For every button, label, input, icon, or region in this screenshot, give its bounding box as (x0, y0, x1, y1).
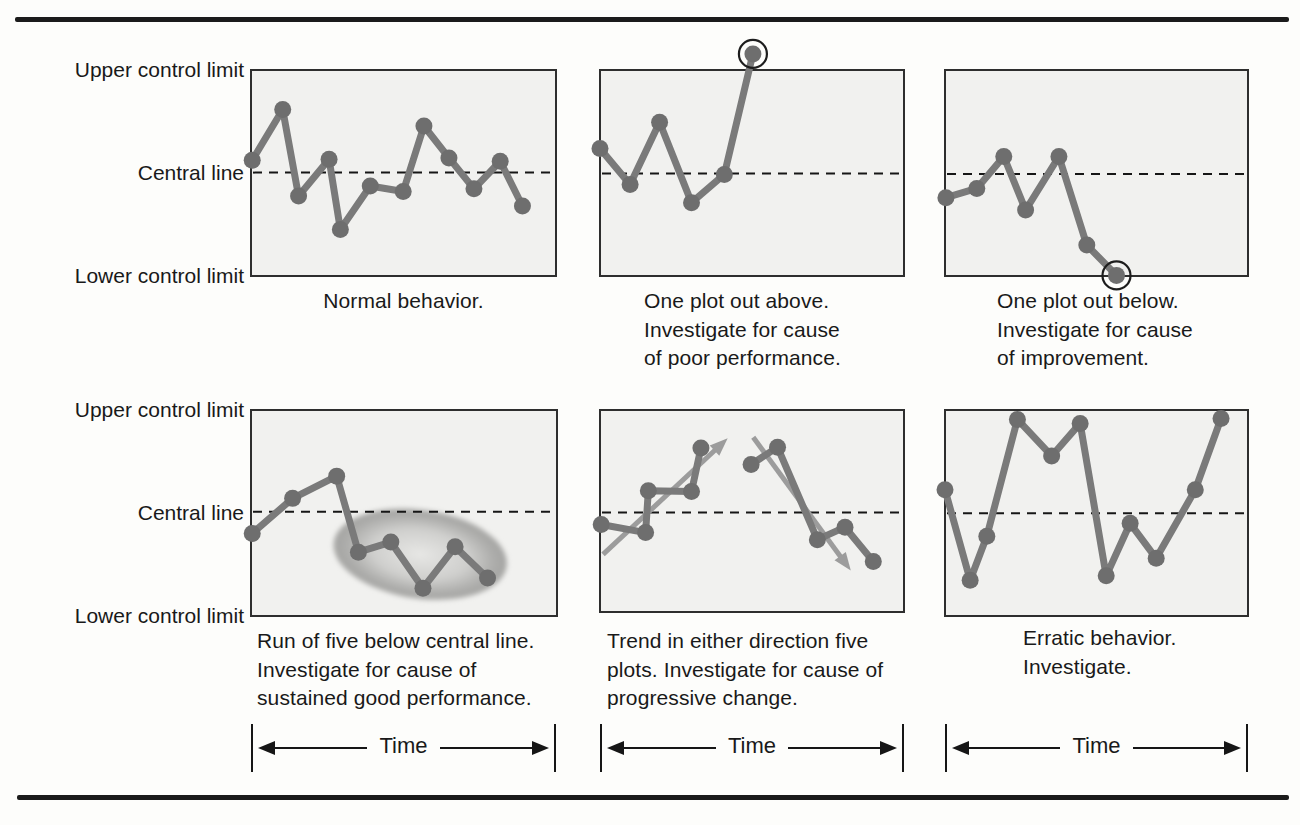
upper-control-limit-label-row1: Upper control limit (20, 57, 244, 83)
chart-panel-one-plot-out-above (568, 38, 936, 308)
arrowhead-left-icon (258, 741, 275, 755)
chart-panel-normal-behavior (219, 38, 588, 308)
time-axis-col1: Time (251, 724, 556, 772)
lower-control-limit-label-row2: Lower control limit (20, 603, 244, 629)
central-line-label-row1: Central line (20, 160, 244, 186)
caption-one-plot-out-below: One plot out below. Investigate for caus… (997, 287, 1193, 373)
time-axis-left-bar (600, 724, 602, 772)
caption-trend-five-plots: Trend in either direction five plots. In… (607, 627, 883, 713)
time-axis-right-bar (554, 724, 556, 772)
chart-panel-trend-in-either-direction (568, 378, 936, 644)
arrowhead-left-icon (952, 741, 969, 755)
upper-control-limit-label-row2: Upper control limit (20, 397, 244, 423)
top-rule (15, 17, 1289, 22)
time-axis-line-left (969, 747, 1060, 749)
chart-panel-run-of-five-below-central-line (219, 378, 589, 648)
time-axis-line-left (624, 747, 716, 749)
time-axis-col3: Time (945, 724, 1248, 772)
time-axis-right-bar (902, 724, 904, 772)
chart-panel-erratic-behavior (913, 378, 1280, 648)
arrowhead-right-icon (1224, 741, 1241, 755)
central-line-label-row2: Central line (20, 500, 244, 526)
time-axis-label: Time (379, 733, 427, 759)
time-axis-line-right (788, 747, 880, 749)
time-axis-label: Time (1072, 733, 1120, 759)
caption-normal-behavior: Normal behavior. (251, 287, 556, 316)
time-axis-right-bar (1246, 724, 1248, 772)
time-axis-line-left (275, 747, 367, 749)
caption-erratic-behavior: Erratic behavior. Investigate. (1023, 624, 1176, 681)
time-axis-label: Time (728, 733, 776, 759)
time-axis-col2: Time (600, 724, 904, 772)
chart-panel-one-plot-out-below (913, 38, 1280, 308)
time-axis-left-bar (251, 724, 253, 772)
arrowhead-right-icon (880, 741, 897, 755)
caption-one-plot-out-above: One plot out above. Investigate for caus… (644, 287, 841, 373)
time-axis-line-right (440, 747, 532, 749)
caption-run-of-five-below: Run of five below central line. Investig… (257, 627, 534, 713)
bottom-rule (17, 795, 1289, 800)
arrowhead-right-icon (532, 741, 549, 755)
time-axis-line-right (1133, 747, 1224, 749)
lower-control-limit-label-row1: Lower control limit (20, 263, 244, 289)
time-axis-left-bar (945, 724, 947, 772)
arrowhead-left-icon (607, 741, 624, 755)
